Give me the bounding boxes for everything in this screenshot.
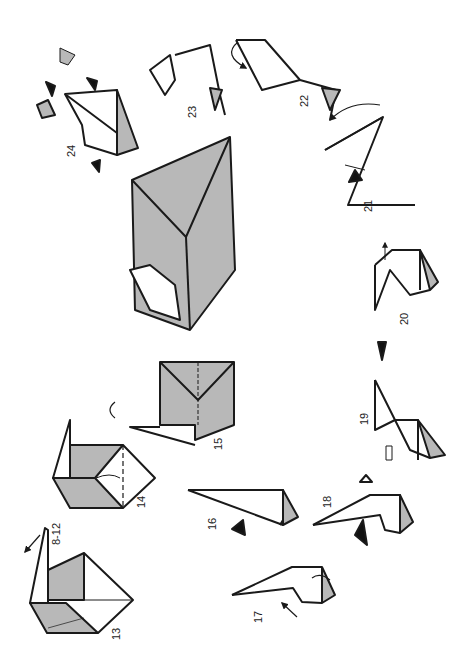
step-15-figure bbox=[110, 362, 234, 445]
step-label-14: 14 bbox=[135, 496, 147, 508]
step-20-figure bbox=[375, 243, 438, 360]
step-label-19: 19 bbox=[358, 413, 370, 425]
origami-diagram: 8-12 13 14 15 16 17 18 19 20 21 22 23 24 bbox=[0, 0, 475, 671]
step-label-15: 15 bbox=[212, 438, 224, 450]
step-19-figure bbox=[375, 380, 445, 460]
step-label-18: 18 bbox=[321, 496, 333, 508]
final-model-figure bbox=[130, 137, 235, 330]
step-label-22: 22 bbox=[298, 95, 310, 107]
step-label-17: 17 bbox=[252, 611, 264, 623]
step-24-figure bbox=[37, 48, 138, 172]
step-label-21: 21 bbox=[362, 200, 374, 212]
step-13-figure bbox=[25, 528, 133, 633]
step-label-16: 16 bbox=[206, 518, 218, 530]
step-22-figure bbox=[232, 40, 340, 120]
step-17-figure bbox=[232, 567, 335, 617]
step-23-figure bbox=[150, 45, 225, 115]
step-16-figure bbox=[188, 490, 298, 535]
step-14-figure bbox=[53, 420, 155, 508]
step-21-figure bbox=[325, 104, 415, 205]
step-label-20: 20 bbox=[398, 313, 410, 325]
step-label-13: 13 bbox=[110, 628, 122, 640]
step-label-24: 24 bbox=[65, 145, 77, 157]
step-18-figure bbox=[313, 475, 413, 545]
step-label-23: 23 bbox=[186, 106, 198, 118]
step-label-8-12: 8-12 bbox=[50, 523, 62, 545]
